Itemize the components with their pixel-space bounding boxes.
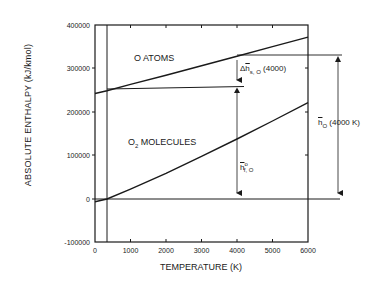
h-formation-reference-line [107,87,244,90]
x-tick-label: 1000 [123,247,139,254]
o-atoms-label: O ATOMS [134,53,174,63]
x-axis-label: TEMPERATURE (K) [160,262,242,272]
y-tick-label: 200000 [30,109,90,116]
x-tick-label: 6000 [300,247,316,254]
enthalpy-chart: 400000 300000 200000 100000 0 -100000 0 … [0,0,379,292]
x-tick-label: 3000 [194,247,210,254]
x-tick-label: 4000 [229,247,245,254]
o2-molecules-label: O2 MOLECULES [128,137,196,149]
delta-h-sensible-label: Δhs, O (4000) [240,64,286,75]
series-o2-molecules [95,103,308,202]
y-tick-label: 300000 [30,65,90,72]
h-formation-label: hof, O [240,161,253,173]
h-absolute-4000k-label: hO (4000 K) [318,118,360,129]
plot-frame [95,25,308,242]
y-tick-label: -100000 [30,239,90,246]
x-tick-label: 5000 [265,247,281,254]
y-tick-label: 0 [30,196,90,203]
x-tick-label: 0 [93,247,97,254]
y-axis-label: ABSOLUTE ENTHALPY (kJ/kmol) [23,44,33,186]
y-tick-label: 400000 [30,22,90,29]
x-tick-label: 2000 [158,247,174,254]
y-tick-label: 100000 [30,152,90,159]
